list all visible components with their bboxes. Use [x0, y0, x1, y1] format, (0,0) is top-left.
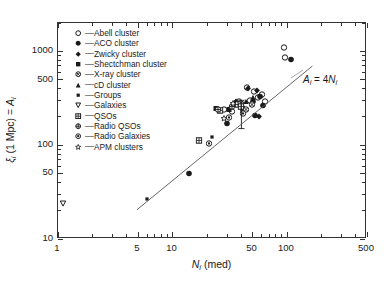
legend-item: —APM clusters: [72, 142, 167, 152]
legend-label: Galaxies: [94, 101, 126, 109]
x-tick-label: 10: [151, 243, 191, 253]
legend-dash: —: [85, 29, 94, 38]
legend-dash: —: [85, 132, 94, 141]
y-tick-label: 50: [42, 167, 53, 177]
x-tick-label: 500: [346, 243, 385, 253]
legend-dash: —: [85, 91, 94, 100]
legend-dash: —: [85, 70, 94, 79]
legend-item: —X-ray cluster: [72, 69, 167, 79]
legend-label: ACO cluster: [94, 39, 139, 47]
legend-marker-open-circle-icon: [72, 30, 85, 36]
y-axis-label-container: ξi (1 Mpc) = Ai: [2, 22, 20, 238]
legend-marker-filled-diamond-icon: [72, 51, 85, 57]
legend-dash: —: [85, 80, 94, 89]
legend-item: —Radio QSOs: [72, 121, 167, 131]
legend-marker-small-square-icon: [72, 92, 85, 98]
y-axis-label: ξi (1 Mpc) = Ai: [4, 97, 18, 163]
legend-item: —ACO cluster: [72, 38, 167, 48]
legend-dash: —: [85, 101, 94, 110]
legend-item: —Shectchman cluster: [72, 59, 167, 69]
legend-marker-circle-x-icon: [72, 71, 85, 77]
legend-marker-filled-circle-icon: [72, 40, 85, 46]
x-tick-label: 1: [37, 243, 77, 253]
x-axis-label: Ni (med): [57, 258, 366, 272]
y-tick-label: 1000: [32, 45, 53, 55]
legend-marker-open-star-icon: [72, 144, 85, 150]
legend: —Abell cluster—ACO cluster—Zwicky cluste…: [72, 28, 167, 152]
y-tick-label: 100: [37, 139, 53, 149]
y-tick-label: 500: [37, 74, 53, 84]
legend-dash: —: [85, 39, 94, 48]
y-tick-label: 10: [42, 233, 53, 243]
legend-dash: —: [85, 111, 94, 120]
legend-label: Radio QSOs: [94, 122, 141, 130]
legend-label: QSOs: [94, 112, 117, 120]
legend-item: —Groups: [72, 90, 167, 100]
fit-line-annotation: Ai = 4Ni: [303, 74, 337, 87]
legend-item: —Radio Galaxies: [72, 131, 167, 141]
legend-dash: —: [85, 60, 94, 69]
legend-label: X-ray cluster: [94, 70, 141, 78]
legend-marker-filled-square-icon: [72, 61, 85, 67]
legend-label: Groups: [94, 91, 121, 99]
legend-label: Zwicky cluster: [94, 50, 146, 58]
legend-item: —Zwicky cluster: [72, 49, 167, 59]
legend-item: —QSOs: [72, 111, 167, 121]
legend-dash: —: [85, 142, 94, 151]
legend-marker-grid-square-icon: [72, 113, 85, 119]
legend-label: cD cluster: [94, 81, 131, 89]
figure-scatter-plot: ξi (1 Mpc) = Ai 10501005001000 151050100…: [0, 0, 385, 285]
legend-label: APM clusters: [94, 143, 143, 151]
legend-marker-filled-triangle-up-icon: [72, 82, 85, 88]
legend-marker-circle-dot-icon: [72, 133, 85, 139]
legend-dash: —: [85, 122, 94, 131]
legend-item: —Galaxies: [72, 100, 167, 110]
legend-label: Radio Galaxies: [94, 132, 150, 140]
x-tick-label: 100: [266, 243, 306, 253]
legend-label: Shectchman cluster: [94, 60, 167, 68]
legend-item: —Abell cluster: [72, 28, 167, 38]
legend-dash: —: [85, 49, 94, 58]
legend-marker-open-triangle-down-icon: [72, 102, 85, 108]
legend-item: —cD cluster: [72, 80, 167, 90]
legend-marker-circle-cross-icon: [72, 123, 85, 129]
legend-label: Abell cluster: [94, 29, 139, 37]
